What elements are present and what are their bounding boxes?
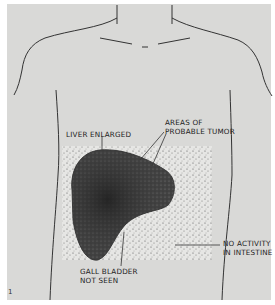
figure-number: 1	[8, 288, 12, 296]
torso-outline-diagram	[0, 0, 275, 305]
right-clavicle	[158, 38, 190, 44]
left-clavicle	[100, 38, 132, 44]
label-liver-enlarged: LIVER ENLARGED	[66, 131, 131, 140]
label-intestine-line2: IN INTESTINE	[223, 249, 273, 258]
right-shoulder-line	[172, 18, 272, 96]
label-no-activity-intestine: NO ACTIVITY IN INTESTINE	[223, 240, 273, 257]
label-gall-bladder: GALL BLADDER NOT SEEN	[80, 268, 138, 285]
label-gall-line2: NOT SEEN	[80, 277, 138, 286]
left-shoulder-line	[14, 18, 117, 95]
left-torso-line	[50, 90, 59, 300]
label-areas-of-tumor: AREAS OF PROBABLE TUMOR	[165, 119, 235, 136]
label-tumor-line2: PROBABLE TUMOR	[165, 128, 235, 137]
